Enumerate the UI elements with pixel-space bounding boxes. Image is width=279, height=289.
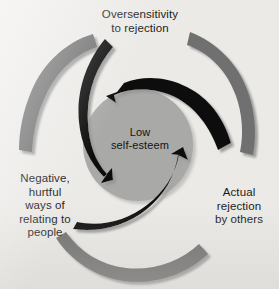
node-label-actual-rejection: Actual rejection by others xyxy=(201,186,277,227)
node-label-negative-relating: Negative, hurtful ways of relating to pe… xyxy=(2,172,88,240)
diagram-root: Oversensitivity to rejection Actual reje… xyxy=(0,0,279,289)
node-label-oversensitivity: Oversensitivity to rejection xyxy=(78,8,202,35)
center-label-low-self-esteem: Low self-esteem xyxy=(92,126,188,152)
